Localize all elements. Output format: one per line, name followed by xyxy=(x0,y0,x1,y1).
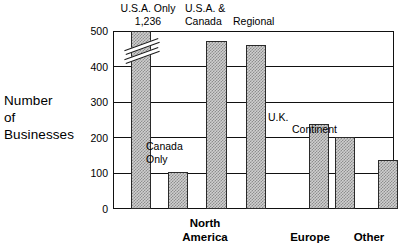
group-label-north-america-line-1: North xyxy=(190,217,221,229)
y-tick-300: 300 xyxy=(74,97,108,108)
bar-canada-only xyxy=(168,172,188,209)
label-continent: Continent xyxy=(292,123,337,135)
label-canada-only-line-2: Only xyxy=(146,153,168,165)
bar-usa-and-canada xyxy=(206,41,227,209)
bar-usa-only xyxy=(131,31,151,209)
y-tick-400: 400 xyxy=(74,62,108,73)
label-usa-and-canada-line-2: Canada xyxy=(185,15,225,28)
y-tick-500: 500 xyxy=(74,26,108,37)
y-tick-200: 200 xyxy=(74,133,108,144)
bar-chart: Number of Businesses 500 400 300 200 100… xyxy=(0,0,405,249)
label-usa-only-value: 1,236 xyxy=(117,15,179,28)
y-axis-tick-labels: 500 400 300 200 100 0 xyxy=(72,31,108,209)
label-usa-and-canada-line-1: U.S.A. & xyxy=(185,2,225,14)
bar-other xyxy=(378,160,398,209)
group-label-north-america: North America xyxy=(160,216,250,244)
label-usa-and-canada: U.S.A. & Canada xyxy=(185,2,225,27)
label-usa-only-line-1: U.S.A. Only xyxy=(121,2,176,14)
y-tick-100: 100 xyxy=(74,168,108,179)
bar-uk xyxy=(309,124,329,209)
label-canada-only: Canada Only xyxy=(146,140,183,165)
label-uk: U.K. xyxy=(268,111,288,123)
axis-break-marker xyxy=(125,40,159,62)
group-label-europe: Europe xyxy=(278,230,342,244)
label-canada-only-line-1: Canada xyxy=(146,140,183,152)
bar-continent xyxy=(335,137,355,209)
label-usa-only: U.S.A. Only 1,236 xyxy=(117,2,179,27)
bar-regional xyxy=(246,45,266,209)
label-regional: Regional xyxy=(233,15,274,28)
group-label-other: Other xyxy=(342,230,396,244)
bar-series xyxy=(113,31,394,209)
y-tick-0: 0 xyxy=(74,204,108,215)
group-label-north-america-line-2: America xyxy=(182,231,227,243)
